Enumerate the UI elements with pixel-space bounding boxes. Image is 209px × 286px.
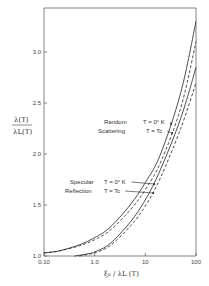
annotation-label: Random <box>104 119 127 125</box>
arrow-head-icon <box>152 192 154 194</box>
annotation-label: Scattering <box>98 128 125 134</box>
annotation-arrow <box>132 182 155 184</box>
x-tick-label: 100 <box>191 259 202 265</box>
series-line-0 <box>44 21 196 253</box>
arrow-head-icon <box>171 132 173 134</box>
arrow-head-icon <box>153 183 155 185</box>
y-tick-label: 2.5 <box>33 100 42 106</box>
annotations: RandomScatteringT = 0° KT = TcSpecularRe… <box>65 119 173 194</box>
y-axis-ticks: 1.01.52.02.53.0 <box>33 49 47 259</box>
annotation-label: Specular <box>70 179 94 185</box>
x-tick-label: 0.10 <box>38 259 50 265</box>
y-axis-label: λ(T) λL(T) <box>12 116 32 136</box>
data-series <box>44 21 196 256</box>
annotation-label: Reflection <box>65 188 92 194</box>
x-axis-label: ξ₀ / λL (T) <box>104 270 139 278</box>
y-label-numerator: λ(T) <box>14 116 29 124</box>
annotation-label: T = 0° K <box>143 119 165 125</box>
y-tick-label: 1.5 <box>33 202 42 208</box>
x-axis-ticks: 0.101.010100 <box>38 253 202 265</box>
series-line-2 <box>75 67 197 256</box>
series-line-3 <box>79 83 196 256</box>
chart: 1.01.52.02.53.0 0.101.010100 RandomScatt… <box>0 0 209 286</box>
y-tick-label: 2.0 <box>33 151 42 157</box>
annotation-label: T = 0° K <box>104 179 126 185</box>
y-label-denominator: λL(T) <box>13 128 32 136</box>
annotation-label: T = Tc <box>104 188 120 194</box>
x-tick-label: 10 <box>142 259 149 265</box>
y-tick-label: 3.0 <box>33 49 42 55</box>
x-tick-label: 1.0 <box>90 259 99 265</box>
arrow-head-icon <box>170 123 172 125</box>
annotation-label: T = Tc <box>146 128 162 134</box>
